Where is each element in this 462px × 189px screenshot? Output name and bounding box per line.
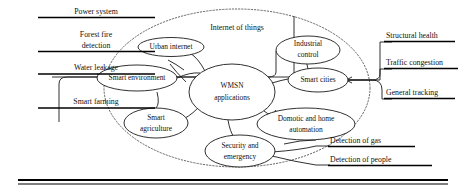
node-label-smart-agriculture-line1: Smart: [147, 113, 166, 122]
node-label-industrial-control-line1: Industrial: [294, 39, 322, 48]
right-label-structural-health: Structural health: [386, 31, 438, 40]
left-label-forest-fire-line2: detection: [82, 41, 111, 50]
node-label-smart-agriculture-line2: agriculture: [140, 124, 173, 133]
internet-of-things-label: Internet of things: [210, 23, 264, 32]
node-label-smart-cities: Smart cities: [300, 75, 335, 84]
node-label-security-line1: Security and: [221, 141, 258, 150]
node-label-wmsn-line2: applications: [214, 93, 250, 102]
node-label-security-line2: emergency: [224, 152, 257, 161]
node-label-domotic-line2: automation: [289, 125, 323, 134]
connector-detection-of-gas: [272, 146, 330, 152]
figure-container: Internet of things Smart environment Urb…: [0, 0, 462, 189]
node-label-wmsn-line1: WMSN: [221, 81, 245, 90]
connector-domotic-gas: [284, 140, 316, 144]
right-label-general-tracking: General tracking: [386, 88, 438, 97]
left-label-smart-farming: Smart farming: [73, 97, 118, 106]
node-label-urban-internet: Urban internet: [150, 42, 194, 51]
connector-traffic-congestion: [348, 69, 392, 80]
connector-wmsn-security-emergency: [228, 120, 234, 137]
right-label-detection-of-people: Detection of people: [330, 155, 392, 164]
connector-wmsn-urban-internet: [190, 53, 205, 71]
left-label-power-system: Power system: [74, 7, 118, 16]
left-label-water-leakage: Water leakage: [74, 63, 119, 72]
right-label-detection-of-gas: Detection of gas: [330, 136, 381, 145]
iot-wmsn-diagram: Internet of things Smart environment Urb…: [0, 0, 462, 189]
left-label-forest-fire-line1: Forest fire: [80, 30, 113, 39]
connector-environment-agriculture: [156, 92, 158, 108]
connector-detection-of-people: [272, 156, 330, 165]
node-label-domotic-line1: Domotic and home: [278, 114, 335, 123]
right-label-traffic-congestion: Traffic congestion: [386, 58, 443, 67]
node-label-industrial-control-line2: control: [298, 50, 319, 59]
connector-wmsn-smart-cities: [272, 79, 288, 83]
